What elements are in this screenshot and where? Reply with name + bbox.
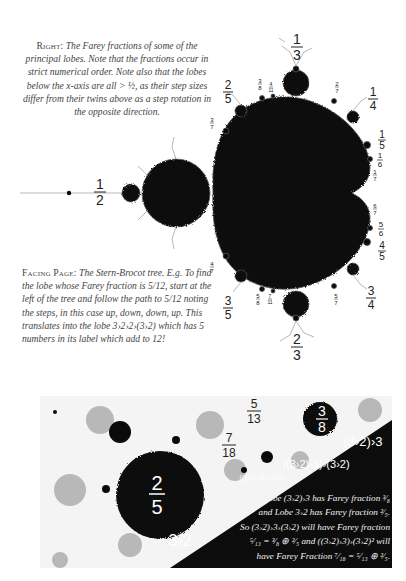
svg-text:6: 6	[378, 160, 383, 169]
note-line: and Lobe 3›2 has Farey fraction ²⁄₅.	[232, 505, 390, 519]
svg-text:11: 11	[268, 87, 273, 93]
svg-text:1: 1	[96, 176, 104, 192]
svg-text:5: 5	[379, 140, 385, 151]
svg-text:5: 5	[251, 397, 258, 411]
farey-label-6-7: 6 7	[373, 203, 377, 216]
svg-text:7: 7	[226, 431, 233, 445]
svg-text:1: 1	[370, 85, 377, 99]
svg-text:18: 18	[222, 446, 236, 460]
farey-label-3-7: 3 7	[210, 117, 214, 130]
label-lobe-3-2-3: (3›2)›3	[343, 434, 382, 449]
farey-label-4-11: 4 11	[268, 81, 273, 93]
farey-label-1-2: 1 2	[94, 176, 106, 208]
svg-text:4: 4	[368, 298, 375, 312]
svg-text:5: 5	[379, 251, 385, 262]
label-7-18: 7 18	[222, 431, 236, 460]
svg-text:2: 2	[335, 81, 339, 87]
svg-text:7: 7	[373, 210, 377, 216]
svg-text:7: 7	[373, 176, 377, 182]
svg-text:3: 3	[293, 47, 301, 63]
label-2-5: 2 5	[149, 472, 165, 518]
farey-label-1-6: 1 6	[377, 151, 383, 169]
note-line: So (3›2)›3›(3›2) will have Farey fractio…	[232, 520, 390, 534]
farey-sum-note: Lobe (3›2)›3 has Farey fraction ³⁄₈ and …	[232, 491, 390, 563]
farey-label-2-5: 2 5	[223, 78, 233, 106]
svg-text:4: 4	[210, 261, 214, 267]
svg-text:2: 2	[151, 472, 162, 494]
svg-text:7: 7	[210, 124, 214, 130]
svg-text:7: 7	[210, 268, 214, 274]
note-line: ⁵⁄₁₃ = ³⁄₈ ⊕ ²⁄₅ and ((3›2)›3)›(3›2)² wi…	[232, 534, 390, 548]
svg-text:1: 1	[293, 31, 301, 47]
svg-text:3: 3	[225, 294, 232, 308]
farey-label-3-8: 3 8	[258, 78, 262, 91]
svg-text:6: 6	[373, 203, 377, 209]
svg-text:1: 1	[379, 129, 385, 140]
svg-text:2: 2	[293, 331, 301, 347]
farey-label-5-6: 5 6	[378, 220, 384, 238]
farey-label-3-5: 3 5	[223, 294, 233, 322]
svg-text:4: 4	[370, 99, 377, 113]
farey-label-2-3: 2 3	[291, 331, 303, 363]
svg-text:8: 8	[256, 300, 260, 306]
svg-text:5: 5	[225, 308, 232, 322]
svg-text:3: 3	[293, 347, 301, 363]
svg-text:6: 6	[379, 229, 384, 238]
label-5-13: 5 13	[247, 397, 261, 426]
svg-text:3: 3	[210, 117, 214, 123]
svg-text:5: 5	[256, 293, 260, 299]
farey-label-1-7: 1 7	[373, 169, 377, 182]
svg-text:7: 7	[335, 88, 339, 94]
svg-text:5: 5	[379, 220, 384, 229]
svg-text:5: 5	[151, 496, 162, 518]
label-lobe-nested: ((3›2)›3)›(3›2)	[282, 458, 349, 470]
farey-label-2-7: 2 7	[335, 81, 339, 94]
svg-text:8: 8	[258, 85, 262, 91]
note-line: Lobe (3›2)›3 has Farey fraction ³⁄₈	[232, 491, 390, 505]
label-3-8: 3 8	[316, 403, 328, 435]
svg-text:1: 1	[378, 151, 383, 160]
farey-label-4-7: 4 7	[210, 261, 214, 274]
svg-text:1: 1	[373, 169, 377, 175]
farey-label-3-4: 3 4	[366, 284, 376, 312]
svg-text:5: 5	[334, 293, 338, 299]
svg-text:3: 3	[318, 403, 326, 419]
farey-label-5-7: 5 7	[334, 293, 338, 306]
svg-text:2: 2	[96, 192, 104, 208]
svg-text:7: 7	[334, 300, 338, 306]
svg-text:11: 11	[267, 299, 272, 305]
svg-text:13: 13	[247, 412, 261, 426]
note-line: have Farey Fraction ⁷⁄₁₈ = ⁵⁄₁₃ ⊕ ²⁄₅.	[232, 549, 390, 563]
farey-label-1-3: 1 3	[291, 31, 303, 63]
label-lobe-3-2: 3›2	[168, 532, 191, 549]
svg-text:4: 4	[379, 240, 385, 251]
farey-label-1-5: 1 5	[378, 129, 386, 151]
svg-text:8: 8	[318, 419, 326, 435]
svg-text:5: 5	[225, 92, 232, 106]
svg-text:3: 3	[368, 284, 375, 298]
farey-label-4-5: 4 5	[378, 240, 386, 262]
lobe-2-5	[116, 451, 204, 539]
farey-label-7-11: 7 11	[267, 293, 272, 305]
mandelbrot-shape	[20, 66, 373, 321]
label-lobe-nested-squared: ((3›2)›3)›(3›2)²	[239, 474, 285, 482]
svg-text:3: 3	[258, 78, 262, 84]
svg-text:2: 2	[225, 78, 232, 92]
farey-label-5-8: 5 8	[256, 293, 260, 306]
lobe-3-8	[303, 402, 337, 436]
farey-label-1-4: 1 4	[368, 85, 378, 113]
mandelbrot-figure: 1 2 1 3 2 3 2 5 3 5 1 4 3 4 1 5 4 5	[0, 0, 406, 395]
